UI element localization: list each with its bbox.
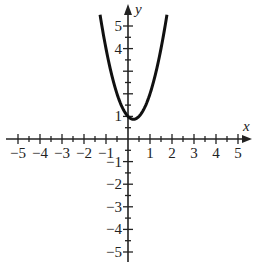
y-axis-arrow-icon: [124, 4, 132, 15]
y-tick-label: −2: [106, 176, 122, 192]
x-tick-label: −4: [32, 145, 48, 161]
y-tick-label: −3: [106, 199, 122, 215]
x-axis-label: x: [242, 118, 250, 134]
y-tick-label: 5: [115, 18, 123, 34]
axes: [6, 4, 252, 262]
x-tick-label: 5: [234, 145, 242, 161]
x-tick-label: 4: [212, 145, 220, 161]
y-tick-label: 1: [115, 108, 123, 124]
y-tick-label: −5: [106, 244, 122, 260]
y-tick-label: −1: [106, 154, 122, 170]
chart-plot: −5−4−3−2−112345541−1−2−3−4−5 x y: [0, 0, 256, 269]
y-tick-label: −4: [106, 221, 122, 237]
x-tick-label: 2: [168, 145, 176, 161]
x-tick-label: −5: [10, 145, 26, 161]
y-axis-label: y: [133, 1, 142, 17]
y-tick-label: 4: [115, 41, 123, 57]
x-axis-arrow-icon: [242, 135, 252, 143]
x-tick-label: 1: [146, 145, 154, 161]
x-tick-label: −2: [76, 145, 92, 161]
x-tick-label: −3: [54, 145, 70, 161]
parabola-curve: [100, 15, 167, 119]
x-tick-label: 3: [190, 145, 198, 161]
